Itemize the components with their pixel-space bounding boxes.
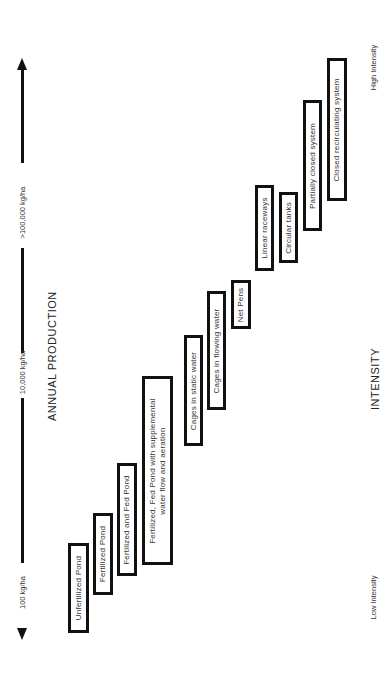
system-label: Net Pens [236,287,246,322]
intensity-high-label: High Intensity [369,33,378,103]
axis-line-segment-top [21,68,24,163]
system-label: Cages in flowing water [212,308,222,393]
system-label: Fertilized, Fed Pond with supplemental w… [148,398,168,543]
axis-line-segment-bottom [21,398,24,563]
axis-line-segment-mid [21,248,24,353]
system-box-linear-raceways: Linear raceways [255,185,274,271]
system-box-partially-closed: Partially closed system [303,100,322,231]
intensity-axis-title: INTENSITY [369,334,381,424]
system-label-line1: Fertilized, Fed Pond with supplemental [148,398,157,543]
system-box-cages-static: Cages in static water [184,335,203,446]
system-label: Partially closed system [308,123,318,209]
system-label: Linear raceways [260,197,270,258]
system-box-circular-tanks: Circular tanks [279,192,298,263]
system-label: Cages in static water [189,351,199,429]
system-box-fertilized-fed-pond: Fertilized and Fed Pond [117,463,137,576]
tick-label-mid: 10,000 kg/ha [18,345,27,401]
tick-label-low: 100 kg/ha [18,565,27,621]
system-label-line2: water flow and aeration [158,427,167,514]
arrow-down-icon [17,628,27,640]
system-box-net-pens: Net Pens [231,280,251,329]
system-label: Unfertilized Pond [74,556,84,620]
system-box-cages-flowing: Cages in flowing water [207,291,226,410]
system-label: Fertilized Pond [98,526,108,582]
system-box-closed-recirculating: Closed recirculating system [327,58,347,201]
system-box-fed-pond-aeration: Fertilized, Fed Pond with supplemental w… [142,376,173,565]
tick-label-high: >100,000 kg/ha [18,183,27,243]
system-label: Circular tanks [284,202,294,254]
production-axis-title: ANNUAL PRODUCTION [46,301,58,421]
system-box-fertilized-pond: Fertilized Pond [93,513,113,595]
intensity-low-label: Low Intensity [369,563,378,633]
system-box-unfertilized-pond: Unfertilized Pond [68,543,89,633]
system-label: Fertilized and Fed Pond [122,475,132,565]
system-label: Closed recirculating system [332,78,342,181]
